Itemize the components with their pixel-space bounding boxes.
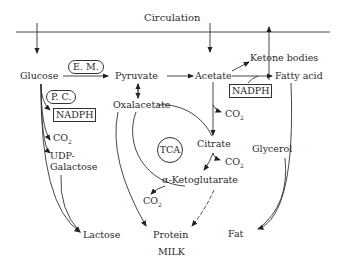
nadph-left-label: NADPH — [53, 108, 96, 122]
co2-citrate: CO2 — [225, 157, 244, 169]
glycerol-node: Glycerol — [252, 144, 292, 154]
co2-text: CO — [225, 108, 240, 119]
oxalacetate-node: Oxalacetate — [113, 100, 170, 110]
co2-subscript: 2 — [240, 162, 244, 169]
tca-text: TCA — [160, 145, 180, 155]
protein-node: Protein — [153, 230, 188, 240]
co2-text: CO — [143, 195, 158, 206]
circulation-label: Circulation — [144, 13, 201, 23]
milk-label: MILK — [158, 247, 185, 257]
co2-subscript: 2 — [158, 201, 162, 208]
co2-text: CO — [225, 156, 240, 167]
galactose-label: Galactose — [50, 162, 97, 172]
nadph-right-label: NADPH — [229, 84, 272, 98]
pathway-arrows — [0, 0, 337, 266]
co2-subscript: 2 — [68, 138, 72, 145]
co2-text: CO — [53, 132, 68, 143]
alpha-ketoglutarate-node: α-Ketoglutarate — [162, 175, 238, 185]
ketone-bodies-node: Ketone bodies — [250, 53, 318, 63]
co2-glucose: CO2 — [53, 133, 72, 145]
fat-node: Fat — [228, 229, 243, 239]
pyruvate-node: Pyruvate — [115, 71, 158, 81]
acetate-node: Acetate — [195, 71, 232, 81]
co2-subscript: 2 — [240, 114, 244, 121]
glucose-node: Glucose — [20, 71, 58, 81]
fatty-acid-node: Fatty acid — [275, 71, 323, 81]
co2-acetate: CO2 — [225, 109, 244, 121]
em-pathway-label: E. M. — [68, 60, 104, 74]
citrate-node: Citrate — [197, 139, 231, 149]
pc-pathway-label: P. C. — [46, 90, 76, 104]
udp-label: UDP- — [50, 151, 75, 161]
co2-ketoglutarate: CO2 — [143, 196, 162, 208]
tca-cycle-label: TCA — [157, 137, 183, 163]
lactose-node: Lactose — [83, 230, 120, 240]
